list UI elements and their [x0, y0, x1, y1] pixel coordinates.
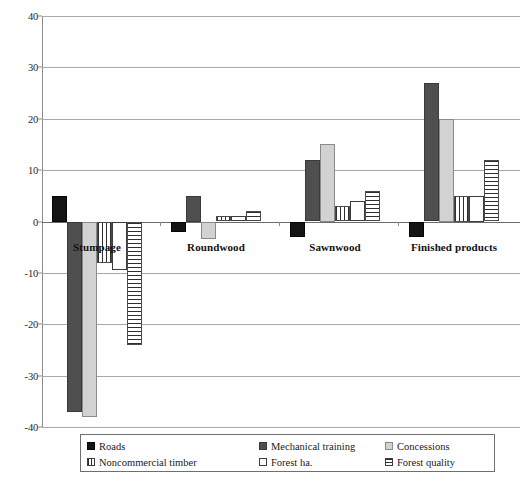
category-label-stumpage: Stumpage — [73, 241, 121, 253]
mechanical-training-swatch — [259, 442, 267, 450]
legend-label: Mechanical training — [271, 441, 355, 452]
bar-finished-products-noncom[interactable] — [454, 196, 469, 222]
bar-finished-products-mech[interactable] — [424, 83, 439, 222]
roads-swatch — [87, 442, 95, 450]
noncommercial-timber-swatch — [87, 458, 95, 466]
gridline--40 — [42, 427, 520, 428]
bar-sawnwood-noncom[interactable] — [335, 206, 350, 221]
plot-area: 403020100-10-20-30-40 StumpageRoundwoodS… — [42, 16, 520, 427]
bar-roundwood-mech[interactable] — [186, 196, 201, 222]
y-tick-label: -40 — [25, 422, 38, 433]
bar-sawnwood-quality[interactable] — [365, 191, 380, 222]
bar-roundwood-noncom[interactable] — [216, 216, 231, 221]
concessions-swatch — [385, 442, 393, 450]
bars-layer — [42, 16, 520, 427]
legend: RoadsMechanical trainingConcessionsNonco… — [80, 434, 495, 472]
y-tick-label: 20 — [28, 113, 38, 124]
legend-label: Concessions — [397, 441, 450, 452]
bar-sawnwood-roads[interactable] — [290, 222, 305, 237]
y-tick-label: -20 — [25, 319, 38, 330]
y-tick-label: 10 — [28, 165, 38, 176]
forest-quality-swatch — [385, 458, 393, 466]
category-label-finished-products: Finished products — [411, 241, 497, 253]
bar-finished-products-roads[interactable] — [409, 222, 424, 237]
bar-stumpage-roads[interactable] — [52, 196, 67, 222]
legend-item-noncom[interactable]: Noncommercial timber — [87, 457, 259, 468]
legend-item-roads[interactable]: Roads — [87, 441, 259, 452]
legend-grid: RoadsMechanical trainingConcessionsNonco… — [87, 438, 494, 470]
bar-roundwood-quality[interactable] — [246, 211, 261, 221]
legend-label: Noncommercial timber — [99, 457, 197, 468]
forest-ha-swatch — [259, 458, 267, 466]
legend-item-conc[interactable]: Concessions — [385, 441, 494, 452]
x-tick-mark — [398, 222, 399, 226]
legend-label: Forest ha. — [271, 457, 312, 468]
legend-item-mech[interactable]: Mechanical training — [259, 441, 385, 452]
legend-label: Forest quality — [397, 457, 455, 468]
category-label-sawnwood: Sawnwood — [309, 241, 361, 253]
bar-stumpage-quality[interactable] — [127, 222, 142, 345]
y-tick-label: 30 — [28, 62, 38, 73]
legend-label: Roads — [99, 441, 125, 452]
bar-sawnwood-mech[interactable] — [305, 160, 320, 222]
legend-item-quality[interactable]: Forest quality — [385, 457, 494, 468]
y-tick-label: -30 — [25, 370, 38, 381]
x-tick-mark — [160, 222, 161, 226]
bar-chart: 403020100-10-20-30-40 StumpageRoundwoodS… — [0, 0, 528, 482]
y-tick-label: -10 — [25, 267, 38, 278]
bar-finished-products-conc[interactable] — [439, 119, 454, 222]
bar-roundwood-foresth[interactable] — [231, 216, 246, 221]
bar-roundwood-roads[interactable] — [171, 222, 186, 232]
bar-finished-products-foresth[interactable] — [469, 196, 484, 222]
category-label-roundwood: Roundwood — [187, 241, 245, 253]
legend-item-foresth[interactable]: Forest ha. — [259, 457, 385, 468]
x-tick-mark — [279, 222, 280, 226]
y-tick-label: 0 — [33, 216, 38, 227]
bar-finished-products-quality[interactable] — [484, 160, 499, 222]
bar-roundwood-conc[interactable] — [201, 222, 216, 240]
bar-sawnwood-foresth[interactable] — [350, 201, 365, 222]
y-tick-label: 40 — [28, 11, 38, 22]
bar-sawnwood-conc[interactable] — [320, 144, 335, 221]
